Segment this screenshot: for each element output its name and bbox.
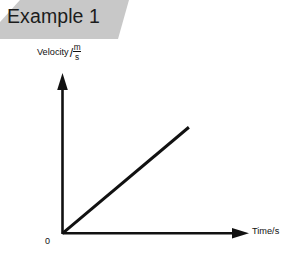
plot-area — [0, 0, 292, 261]
origin-label: 0 — [45, 236, 50, 246]
x-axis-label: Time/s — [252, 226, 279, 236]
figure-canvas: Example 1 Velocity / m s Time/s 0 — [0, 0, 292, 261]
y-axis-arrowhead — [57, 73, 68, 90]
x-axis-arrowhead — [232, 228, 249, 239]
data-line-uniform-acceleration — [63, 127, 189, 233]
